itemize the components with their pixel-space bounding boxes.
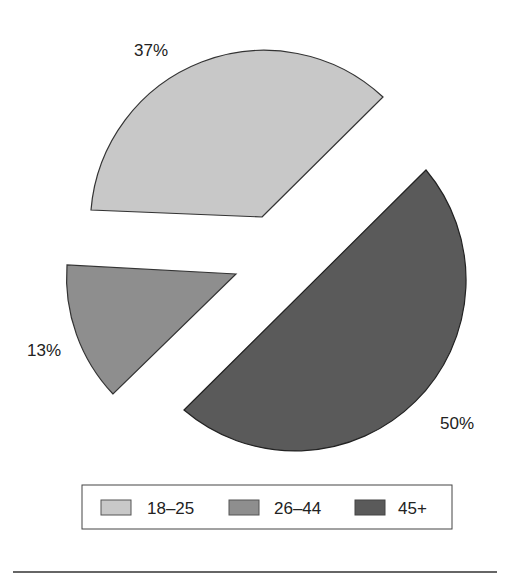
legend-label-45-plus: 45+: [398, 499, 427, 518]
label-50: 50%: [440, 414, 474, 433]
legend-label-18-25: 18–25: [147, 499, 194, 518]
label-37: 37%: [134, 41, 168, 60]
slice-26-44: [67, 265, 236, 394]
legend-swatch-18-25: [101, 500, 131, 515]
slice-18-25: [91, 50, 383, 217]
legend: 18–25 26–44 45+: [82, 485, 452, 529]
pie-chart: 37% 13% 50% 18–25 26–44 45+: [0, 0, 514, 579]
label-13: 13%: [27, 341, 61, 360]
legend-swatch-45-plus: [355, 500, 385, 515]
legend-label-26-44: 26–44: [274, 499, 321, 518]
legend-swatch-26-44: [229, 500, 259, 515]
